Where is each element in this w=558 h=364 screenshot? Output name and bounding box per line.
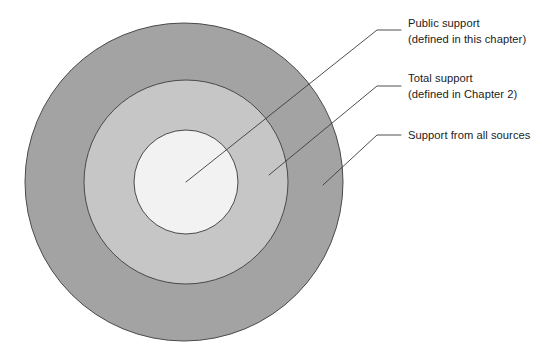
callout-public-support-line-1: Public support	[408, 16, 526, 32]
callout-label-public-support: Public support (defined in this chapter)	[408, 16, 526, 47]
figure-root: Public support (defined in this chapter)…	[0, 0, 558, 364]
callout-support-all-sources-line-1: Support from all sources	[408, 128, 530, 144]
callout-label-total-support: Total support (defined in Chapter 2)	[408, 71, 517, 102]
callout-label-support-all-sources: Support from all sources	[408, 128, 530, 144]
callout-public-support-line-2: (defined in this chapter)	[408, 32, 526, 48]
callout-total-support-line-2: (defined in Chapter 2)	[408, 87, 517, 103]
concentric-rings-diagram	[0, 0, 558, 364]
callout-total-support-line-1: Total support	[408, 71, 517, 87]
